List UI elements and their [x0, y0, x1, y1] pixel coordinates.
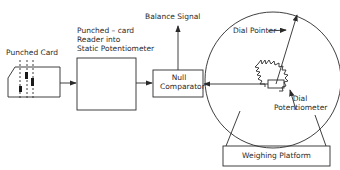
card-reader-box — [77, 58, 136, 110]
card-reader-label: Punched – card Reader into Static Potent… — [77, 26, 154, 53]
diagram-canvas: Punched Card Punched – card Reader into … — [0, 0, 340, 170]
weighing-platform-label: Weighing Platform — [223, 151, 330, 160]
punched-card-label: Punched Card — [6, 48, 58, 57]
dial-potentiometer-label: Dial Potentiometer — [274, 94, 326, 112]
dial-pointer-label: Dial Pointer — [233, 26, 276, 35]
null-comparator-label: Null Comparator — [160, 73, 198, 91]
balance-signal-label: Balance Signal — [145, 12, 200, 21]
